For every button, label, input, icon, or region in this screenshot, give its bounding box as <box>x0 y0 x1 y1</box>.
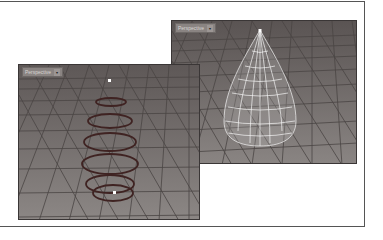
grid-plane <box>19 65 200 220</box>
viewport-label[interactable]: Perspective ▾ <box>175 23 216 33</box>
chevron-down-icon[interactable]: ▾ <box>207 25 213 32</box>
control-point[interactable] <box>108 79 111 82</box>
viewport-label[interactable]: Perspective ▾ <box>22 67 63 77</box>
viewport-perspective-left[interactable]: Perspective ▾ <box>18 64 200 220</box>
control-point[interactable] <box>113 191 116 194</box>
chevron-down-icon[interactable]: ▾ <box>54 69 60 76</box>
control-point[interactable] <box>259 29 262 32</box>
